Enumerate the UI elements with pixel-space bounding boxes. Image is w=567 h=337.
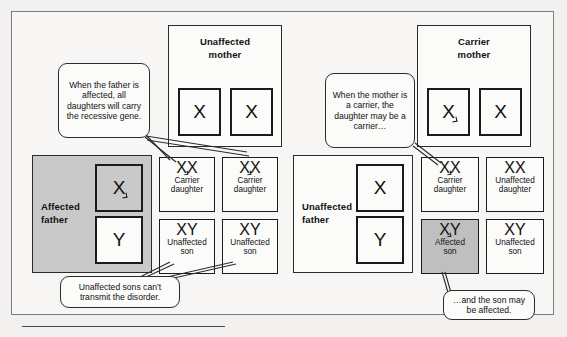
left-mother-title-line2: mother bbox=[169, 49, 281, 61]
left-father-allele-x-label: X bbox=[113, 177, 126, 199]
left-mother-title-line1: Unaffected bbox=[169, 36, 281, 48]
callout-father-affected: When the father is affected, all daughte… bbox=[58, 63, 150, 138]
bottom-rule bbox=[22, 326, 225, 327]
right-offspring-cell-2: XX Unaffected daughter bbox=[486, 157, 544, 212]
right-offspring-1-genotype: XX bbox=[439, 159, 460, 176]
left-offspring-4-genotype: XY bbox=[239, 221, 260, 238]
right-mother-allele-1-label: X bbox=[442, 101, 455, 123]
right-offspring-4-line2: son bbox=[508, 247, 521, 256]
callout-son-may-be-affected: …and the son may be affected. bbox=[443, 290, 535, 320]
right-mother-allele-1: X bbox=[427, 88, 470, 136]
callout-mother-carrier: When the mother is a carrier, the daught… bbox=[325, 73, 415, 148]
right-offspring-2-line2: daughter bbox=[499, 185, 531, 194]
left-offspring-3-line1: Unaffected bbox=[167, 238, 206, 247]
left-offspring-cell-3: XY Unaffected son bbox=[159, 219, 215, 274]
left-father-allele-y: Y bbox=[95, 216, 143, 264]
left-offspring-1-genotype: XX bbox=[176, 159, 197, 176]
right-offspring-cell-3: XY Affected son bbox=[421, 219, 479, 274]
left-mother-allele-1-label: X bbox=[193, 101, 206, 123]
left-offspring-4-line1: Unaffected bbox=[230, 238, 269, 247]
right-offspring-1-line1: Carrier bbox=[437, 176, 462, 185]
right-offspring-3-line1: Affected bbox=[435, 238, 465, 247]
left-mother-allele-2-label: X bbox=[245, 101, 258, 123]
right-mother-title-line1: Carrier bbox=[418, 36, 530, 48]
right-mother-panel: Carrier mother X X bbox=[417, 25, 531, 147]
left-offspring-3-line2: son bbox=[180, 247, 193, 256]
left-offspring-cell-4: XY Unaffected son bbox=[222, 219, 278, 274]
left-mother-allele-1: X bbox=[178, 88, 221, 136]
right-offspring-3-line2: son bbox=[443, 247, 456, 256]
left-offspring-cell-1: XX Carrier daughter bbox=[159, 157, 215, 212]
left-father-allele-x: X bbox=[95, 164, 143, 212]
right-father-allele-y: Y bbox=[356, 216, 404, 264]
left-offspring-2-genotype: XX bbox=[239, 159, 260, 176]
right-mother-title-line2: mother bbox=[418, 49, 530, 61]
right-offspring-cell-1: XX Carrier daughter bbox=[421, 157, 479, 212]
callout-sons-cannot-transmit: Unaffected sons can’t transmit the disor… bbox=[60, 276, 180, 308]
left-father-title-line1: Affected bbox=[41, 200, 80, 213]
left-offspring-1-line1: Carrier bbox=[174, 176, 199, 185]
right-offspring-2-line1: Unaffected bbox=[495, 176, 534, 185]
right-mother-allele-2: X bbox=[479, 88, 522, 136]
left-father-panel: Affected father X Y bbox=[32, 155, 152, 273]
left-offspring-3-genotype: XY bbox=[176, 221, 197, 238]
left-mother-panel: Unaffected mother X X bbox=[168, 25, 282, 147]
left-father-allele-y-label: Y bbox=[113, 229, 126, 251]
left-mother-allele-2: X bbox=[230, 88, 273, 136]
right-offspring-4-genotype: XY bbox=[504, 221, 525, 238]
left-offspring-2-line1: Carrier bbox=[237, 176, 262, 185]
left-offspring-2-line2: daughter bbox=[234, 185, 266, 194]
punnett-square-figure: Unaffected mother X X Affected father X … bbox=[0, 0, 567, 337]
right-offspring-cell-4: XY Unaffected son bbox=[486, 219, 544, 274]
right-father-panel: Unaffected father X Y bbox=[293, 155, 413, 273]
left-father-title-line2: father bbox=[41, 213, 68, 226]
right-offspring-4-line1: Unaffected bbox=[495, 238, 534, 247]
left-offspring-1-line2: daughter bbox=[171, 185, 203, 194]
right-offspring-3-genotype: XY bbox=[439, 221, 460, 238]
right-father-title-line1: Unaffected bbox=[302, 200, 352, 213]
right-father-allele-y-label: Y bbox=[374, 229, 387, 251]
left-offspring-cell-2: XX Carrier daughter bbox=[222, 157, 278, 212]
right-offspring-1-line2: daughter bbox=[434, 185, 466, 194]
right-offspring-2-genotype: XX bbox=[504, 159, 525, 176]
right-father-allele-x: X bbox=[356, 164, 404, 212]
right-father-title-line2: father bbox=[302, 213, 329, 226]
right-mother-allele-2-label: X bbox=[494, 101, 507, 123]
left-offspring-4-line2: son bbox=[243, 247, 256, 256]
right-father-allele-x-label: X bbox=[374, 177, 387, 199]
